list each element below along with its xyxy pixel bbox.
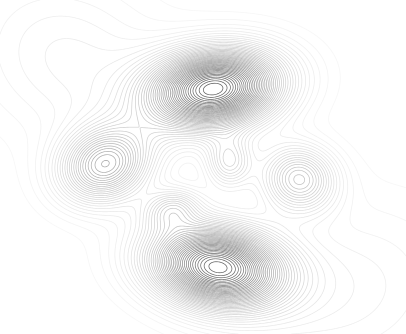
contour-plot-figure: Unlabeled line contour plot of a smooth … (0, 0, 406, 334)
contour-plot-canvas (0, 0, 406, 334)
